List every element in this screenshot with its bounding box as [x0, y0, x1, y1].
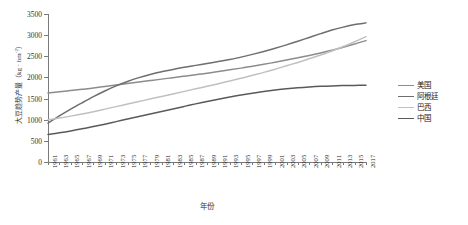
x-axis-tick — [139, 162, 140, 165]
legend-line-swatch — [398, 107, 414, 108]
x-axis-tick — [332, 162, 333, 165]
y-axis-tick-label: 2000 — [27, 73, 42, 82]
x-axis-tick — [82, 162, 83, 165]
x-axis-tick — [93, 162, 94, 165]
series-lines — [48, 14, 366, 162]
x-axis-tick — [309, 162, 310, 165]
x-axis-tick — [150, 162, 151, 165]
y-axis-tick-label: 3000 — [27, 31, 42, 40]
y-axis-title-exponent: -2 — [14, 49, 19, 53]
legend-item[interactable]: 中国 — [398, 113, 438, 124]
y-axis-tick-label: 0 — [38, 158, 42, 167]
legend-label: 阿根廷 — [417, 93, 438, 101]
legend-line-swatch — [398, 96, 414, 97]
legend-line-swatch — [398, 85, 414, 86]
x-axis-tick — [366, 162, 367, 165]
y-axis-tick-label: 1000 — [27, 115, 42, 124]
x-axis-tick — [264, 162, 265, 165]
series-line-巴西 — [48, 37, 366, 120]
plot-area: 0500100015002000250030003500 19611963196… — [48, 14, 366, 162]
x-axis-tick — [105, 162, 106, 165]
x-axis-tick — [298, 162, 299, 165]
legend-label: 美国 — [417, 82, 431, 90]
x-axis-tick — [355, 162, 356, 165]
series-line-美国 — [48, 41, 366, 93]
x-axis-tick — [241, 162, 242, 165]
x-axis-tick — [207, 162, 208, 165]
legend-item[interactable]: 阿根廷 — [398, 91, 438, 102]
x-axis-tick — [343, 162, 344, 165]
x-axis-tick — [173, 162, 174, 165]
x-axis-title: 年份 — [48, 200, 366, 211]
x-axis-tick — [184, 162, 185, 165]
x-axis-tick — [196, 162, 197, 165]
legend: 美国阿根廷巴西中国 — [398, 80, 438, 124]
x-axis-tick — [287, 162, 288, 165]
legend-label: 巴西 — [417, 104, 431, 112]
legend-line-swatch — [398, 118, 414, 119]
x-axis-tick — [116, 162, 117, 165]
x-axis-tick — [230, 162, 231, 165]
legend-label: 中国 — [417, 115, 431, 123]
series-line-中国 — [48, 85, 366, 134]
x-axis-tick — [71, 162, 72, 165]
y-axis-tick-label: 1500 — [27, 94, 42, 103]
x-axis-tick — [48, 162, 49, 165]
y-axis-tick-label: 500 — [31, 136, 42, 145]
x-axis-tick — [218, 162, 219, 165]
y-axis-tick-label: 2500 — [27, 52, 42, 61]
y-axis-title-text: 大豆趋势产量（kg · hm — [15, 53, 23, 124]
y-axis-title: 大豆趋势产量（kg · hm-2） — [13, 13, 23, 153]
x-axis-tick — [275, 162, 276, 165]
legend-item[interactable]: 巴西 — [398, 102, 438, 113]
y-axis-tick-label: 3500 — [27, 10, 42, 19]
x-axis-tick-label: 2017 — [369, 155, 376, 168]
x-axis-tick — [321, 162, 322, 165]
chart-root: 大豆趋势产量（kg · hm-2） 0500100015002000250030… — [0, 0, 468, 225]
x-axis-tick — [252, 162, 253, 165]
x-axis-tick — [128, 162, 129, 165]
legend-item[interactable]: 美国 — [398, 80, 438, 91]
y-axis-title-tail: ） — [15, 42, 23, 49]
x-axis-tick — [59, 162, 60, 165]
x-axis-tick — [162, 162, 163, 165]
